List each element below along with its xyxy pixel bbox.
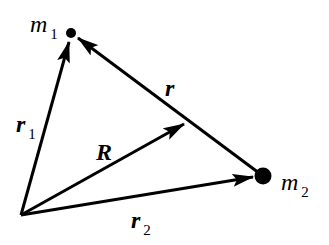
label-R: R (96, 140, 112, 164)
label-m2-subscript: 2 (301, 184, 309, 200)
label-r1-symbol: r (16, 111, 25, 137)
label-m1-subscript: 1 (50, 26, 58, 42)
label-m1: m1 (30, 12, 58, 36)
mass-m1-dot (66, 28, 76, 38)
label-m2: m2 (281, 170, 309, 194)
label-r1: r1 (16, 112, 36, 136)
label-r2: r2 (131, 208, 151, 232)
label-r-symbol: r (165, 75, 174, 101)
label-r2-subscript: 2 (143, 222, 151, 238)
label-m1-symbol: m (30, 11, 47, 37)
mass-m2-dot (255, 168, 272, 185)
label-r1-subscript: 1 (28, 126, 36, 142)
label-R-symbol: R (96, 139, 112, 165)
label-r2-symbol: r (131, 207, 140, 233)
label-m2-symbol: m (281, 169, 298, 195)
label-r: r (165, 76, 174, 100)
